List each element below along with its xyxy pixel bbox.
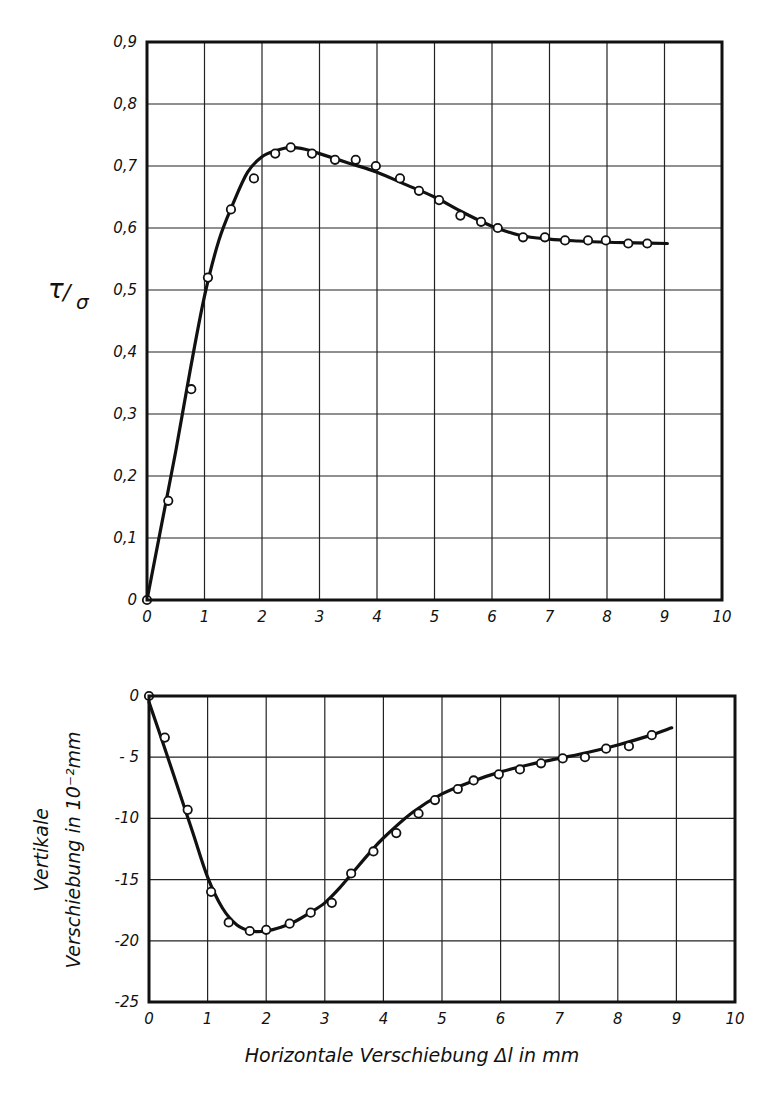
bottom-y-axis-label: Vertikale: [30, 808, 52, 892]
x-tick-label: 4: [372, 608, 382, 626]
data-point-marker: [271, 149, 279, 157]
data-point-marker: [164, 497, 172, 505]
x-tick-label: 3: [315, 608, 325, 626]
y-tick-label: -20: [115, 932, 140, 950]
data-point-marker: [308, 149, 316, 157]
data-point-marker: [581, 753, 589, 761]
data-point-marker: [187, 385, 195, 393]
x-tick-label: 2: [261, 1010, 271, 1028]
y-tick-label: 0,1: [113, 529, 137, 547]
bottom-gridlines: [149, 696, 735, 1002]
data-point-marker: [347, 869, 355, 877]
figure: 012345678910 00,10,20,30,40,50,60,70,80,…: [0, 0, 774, 1093]
x-tick-label: 0: [142, 608, 152, 626]
data-point-marker: [477, 218, 485, 226]
data-point-marker: [392, 829, 400, 837]
x-tick-label: 1: [200, 608, 210, 626]
y-tick-label: 0,5: [113, 281, 137, 299]
y-tick-label: 0,9: [113, 33, 137, 51]
data-point-marker: [643, 239, 651, 247]
data-point-marker: [161, 733, 169, 741]
shear-ratio-chart: 012345678910 00,10,20,30,40,50,60,70,80,…: [48, 33, 732, 626]
data-point-marker: [469, 776, 477, 784]
x-tick-label: 7: [554, 1010, 564, 1028]
x-tick-label: 6: [487, 608, 497, 626]
x-axis-label: Horizontale Verschiebung Δl in mm: [245, 1044, 579, 1066]
data-point-marker: [204, 273, 212, 281]
x-tick-label: 4: [379, 1010, 389, 1028]
data-point-marker: [435, 196, 443, 204]
data-point-marker: [584, 236, 592, 244]
data-point-marker: [602, 236, 610, 244]
data-point-marker: [246, 927, 254, 935]
top-data-markers: [143, 143, 652, 604]
x-tick-label: 3: [320, 1010, 330, 1028]
data-point-marker: [307, 908, 315, 916]
top-y-axis-label: τ / σ: [48, 274, 90, 314]
y-tick-label: - 5: [119, 748, 139, 766]
top-gridlines: [147, 42, 722, 600]
data-point-marker: [559, 754, 567, 762]
data-point-marker: [328, 899, 336, 907]
data-point-marker: [352, 156, 360, 164]
data-point-marker: [369, 847, 377, 855]
data-point-marker: [516, 765, 524, 773]
data-point-marker: [331, 156, 339, 164]
y-label-line1: Vertikale: [30, 808, 52, 892]
x-tick-label: 10: [725, 1010, 744, 1028]
bottom-y-axis-label-2: Verschiebung in 10⁻²mm: [62, 731, 84, 968]
bottom-fitted-curve: [149, 702, 672, 932]
x-tick-label: 6: [496, 1010, 506, 1028]
data-point-marker: [227, 205, 235, 213]
x-tick-label: 9: [672, 1010, 682, 1028]
data-point-marker: [372, 162, 380, 170]
data-point-marker: [494, 224, 502, 232]
x-tick-label: 8: [602, 608, 612, 626]
data-point-marker: [454, 785, 462, 793]
y-tick-label: -10: [115, 809, 140, 827]
y-label-sigma: σ: [76, 290, 90, 314]
y-label-tau: τ: [48, 274, 64, 304]
y-tick-label: -25: [115, 993, 140, 1011]
y-tick-label: 0,3: [113, 405, 137, 423]
data-point-marker: [561, 236, 569, 244]
x-tick-label: 2: [257, 608, 267, 626]
x-tick-label: 0: [144, 1010, 154, 1028]
y-tick-label: 0: [127, 591, 137, 609]
data-point-marker: [456, 211, 464, 219]
x-tick-label: 5: [430, 608, 440, 626]
x-tick-label: 10: [712, 608, 731, 626]
data-point-marker: [519, 233, 527, 241]
bottom-data-markers: [145, 692, 656, 935]
top-y-tick-labels: 00,10,20,30,40,50,60,70,80,9: [113, 33, 137, 609]
fitted-curve-path: [147, 147, 667, 600]
top-x-tick-labels: 012345678910: [142, 608, 731, 626]
y-tick-label: 0: [129, 687, 139, 705]
x-tick-label: 9: [660, 608, 670, 626]
data-point-marker: [495, 770, 503, 778]
data-point-marker: [287, 143, 295, 151]
bottom-x-tick-labels: 012345678910: [144, 1010, 744, 1028]
y-tick-label: 0,7: [113, 157, 137, 175]
fitted-curve-path: [149, 702, 672, 932]
data-point-marker: [207, 888, 215, 896]
data-point-marker: [537, 759, 545, 767]
y-tick-label: 0,4: [113, 343, 137, 361]
data-point-marker: [396, 174, 404, 182]
y-label-slash: /: [61, 280, 73, 305]
y-tick-label: 0,6: [113, 219, 137, 237]
vertical-displacement-chart: 012345678910 0- 5-10-15-20-25 Vertikale …: [30, 687, 745, 1066]
data-point-marker: [624, 239, 632, 247]
bottom-y-tick-labels: 0- 5-10-15-20-25: [115, 687, 140, 1011]
x-tick-label: 8: [613, 1010, 623, 1028]
data-point-marker: [431, 796, 439, 804]
x-tick-label: 7: [545, 608, 555, 626]
data-point-marker: [183, 806, 191, 814]
data-point-marker: [224, 918, 232, 926]
x-tick-label: 5: [437, 1010, 447, 1028]
y-tick-label: 0,2: [113, 467, 137, 485]
data-point-marker: [415, 187, 423, 195]
x-tick-label: 1: [203, 1010, 213, 1028]
data-point-marker: [285, 919, 293, 927]
data-point-marker: [602, 744, 610, 752]
